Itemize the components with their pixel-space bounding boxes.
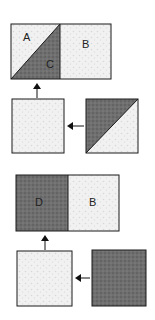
half-square-triangle-input: [86, 99, 138, 153]
label-d: D: [35, 196, 43, 208]
label-b-bottom: B: [89, 196, 96, 208]
square-b-top: B: [60, 24, 111, 79]
square-b-bottom: B: [68, 175, 119, 231]
square-d: D: [16, 175, 68, 231]
step1-result-unit: A C B: [11, 24, 111, 79]
label-a: A: [23, 31, 31, 43]
plain-dark-square: [92, 250, 146, 306]
hst-block-ac: A C: [11, 24, 60, 79]
arrow-left-icon: [75, 274, 90, 282]
label-c: C: [46, 58, 54, 70]
label-b-top: B: [82, 38, 89, 50]
step2-result-unit: D B: [16, 175, 119, 231]
arrow-up-icon: [41, 235, 49, 250]
plain-light-square-2: [17, 251, 72, 306]
arrow-left-icon: [67, 122, 84, 130]
plain-light-square-1: [12, 99, 64, 153]
arrow-up-icon: [33, 83, 41, 98]
assembly-diagram: A C B D B: [0, 0, 155, 320]
